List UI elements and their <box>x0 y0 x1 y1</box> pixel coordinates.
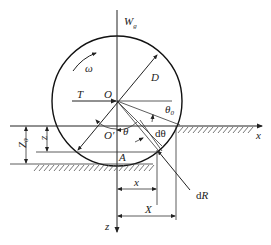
hatch-mark <box>84 165 89 171</box>
hatch-mark <box>99 165 104 171</box>
theta0-marker <box>152 115 153 122</box>
hatch-mark <box>74 165 79 171</box>
soil-hatching-bottom <box>34 165 154 171</box>
hatch-mark <box>208 127 213 133</box>
hatch-mark <box>134 165 139 171</box>
hatch-mark <box>243 127 248 133</box>
dR-arrow <box>158 151 190 190</box>
hatch-mark <box>44 165 49 171</box>
z-axis-label: z <box>104 220 110 232</box>
hatch-mark <box>49 165 54 171</box>
hatch-mark <box>238 127 243 133</box>
lowered-center-label: O′ <box>104 129 115 141</box>
dR-label: dR <box>196 189 209 201</box>
hatch-mark <box>203 127 208 133</box>
soil-hatching-right <box>178 127 253 133</box>
hatch-mark <box>39 165 44 171</box>
hatch-mark <box>193 127 198 133</box>
hatch-mark <box>129 165 134 171</box>
hatch-mark <box>188 127 193 133</box>
hatch-mark <box>228 127 233 133</box>
center-label: O <box>104 88 112 100</box>
hatch-mark <box>69 165 74 171</box>
dtheta-label: dθ <box>155 127 166 139</box>
theta0-label: θ0 <box>165 103 174 117</box>
hatch-mark <box>34 165 39 171</box>
dtheta-marker <box>135 138 143 142</box>
hatch-mark <box>149 165 154 171</box>
hatch-mark <box>139 165 144 171</box>
hatch-mark <box>248 127 253 133</box>
x-dimension-label: x <box>133 176 139 188</box>
hatch-mark <box>144 165 149 171</box>
weight-label: Wg <box>124 15 137 30</box>
x-axis-label: x <box>255 129 261 141</box>
hatch-mark <box>94 165 99 171</box>
hatch-mark <box>89 165 94 171</box>
hatch-mark <box>223 127 228 133</box>
ray-theta-dtheta <box>117 101 162 146</box>
hatch-mark <box>213 127 218 133</box>
hatch-mark <box>64 165 69 171</box>
wheel-soil-interaction-diagram: Wg ω D T O O′ θ0 θ dθ x z Z0 z A x X dR <box>0 0 271 245</box>
Z0-label: Z0 <box>16 138 30 148</box>
point-a-label: A <box>118 151 126 163</box>
theta-label: θ <box>123 125 129 137</box>
hatch-mark <box>54 165 59 171</box>
hatch-mark <box>233 127 238 133</box>
hatch-mark <box>178 127 183 133</box>
diameter-label: D <box>150 71 159 83</box>
hatch-mark <box>198 127 203 133</box>
tow-force-label: T <box>77 88 84 100</box>
hatch-mark <box>183 127 188 133</box>
hatch-mark <box>79 165 84 171</box>
z-label: z <box>37 135 49 141</box>
X-dimension-label: X <box>144 203 153 215</box>
hatch-mark <box>104 165 109 171</box>
hatch-mark <box>59 165 64 171</box>
hatch-mark <box>218 127 223 133</box>
omega-label: ω <box>85 62 93 74</box>
